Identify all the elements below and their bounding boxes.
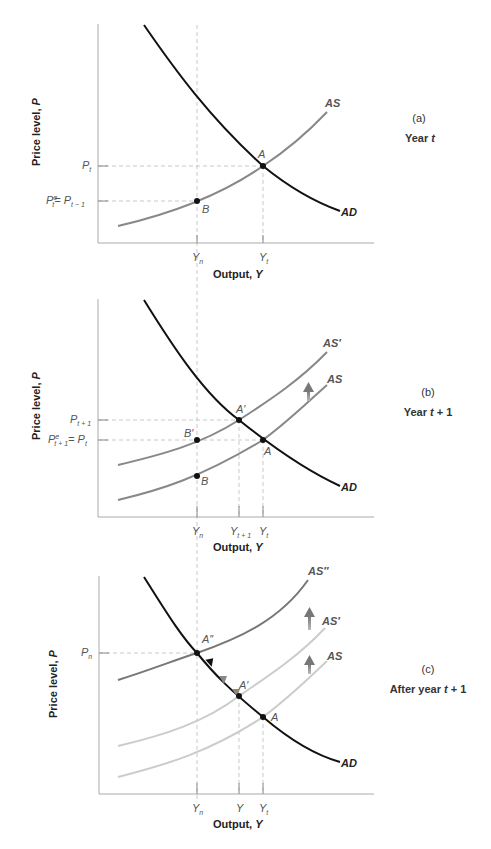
svg-text:Y: Y: [236, 802, 244, 814]
label-as: AS: [326, 373, 343, 385]
label-as: AS: [324, 97, 341, 109]
label-a: A: [263, 445, 271, 457]
svg-text:Pn: Pn: [81, 646, 92, 660]
label-as-prime: AS′: [322, 337, 342, 349]
figure: A B AS AD Pt Pet= Pt − 1 Yn Yt Output, Y…: [0, 0, 491, 849]
label-b: B: [202, 203, 209, 215]
label-as: AS: [326, 650, 343, 662]
svg-text:Yt + 1: Yt + 1: [230, 525, 251, 539]
svg-text:Yt: Yt: [259, 251, 269, 265]
panel-caption: Year t: [405, 132, 436, 144]
label-a-double-prime: A″: [201, 633, 214, 645]
as-curve: [118, 112, 327, 226]
svg-text:Output, Y: Output, Y: [213, 541, 264, 553]
svg-text:Pet + 1= Pt: Pet + 1= Pt: [48, 433, 88, 447]
ad-curve: [144, 300, 340, 486]
svg-text:Pt: Pt: [82, 159, 92, 173]
label-as-prime: AS′: [321, 615, 341, 627]
svg-text:Yt: Yt: [259, 802, 269, 816]
svg-text:Yn: Yn: [192, 525, 203, 539]
label-a-prime: A′: [238, 679, 249, 691]
point-a: [260, 163, 266, 169]
panel-c: A″ A′ A AS″ AS′ AS AD Pn Yn Y Yt Output,…: [47, 565, 466, 830]
label-ad: AD: [340, 206, 357, 218]
panel-a: A B AS AD Pt Pet= Pt − 1 Yn Yt Output, Y…: [30, 24, 436, 280]
svg-text:After year t + 1: After year t + 1: [390, 683, 467, 695]
svg-text:Yn: Yn: [192, 802, 203, 816]
label-b-prime: B′: [184, 427, 194, 439]
label-b: B: [201, 475, 208, 487]
as-curve: [118, 385, 327, 500]
as-prime-curve: [118, 352, 327, 465]
svg-text:Yn: Yn: [192, 251, 203, 265]
ad-curve: [144, 25, 340, 211]
shift-up-arrow-icon: [304, 655, 315, 665]
svg-text:Price level, P: Price level, P: [47, 649, 59, 718]
svg-text:Pt + 1: Pt + 1: [70, 413, 91, 427]
as-prime-curve: [118, 628, 325, 746]
point-b: [194, 198, 200, 204]
label-a: A: [257, 148, 265, 160]
x-axis-label: Output, Y: [213, 268, 264, 280]
label-ad: AD: [340, 757, 357, 769]
panel-tag: (a): [412, 112, 425, 124]
svg-text:Output, Y: Output, Y: [213, 818, 264, 830]
as-double-prime-curve: [118, 580, 308, 680]
svg-text:Pet= Pt − 1: Pet= Pt − 1: [46, 194, 85, 208]
shift-up-arrow-icon: [304, 607, 315, 617]
svg-text:Yt: Yt: [259, 525, 269, 539]
panel-b: A′ A B′ B AS′ AS AD Pt + 1 Pet + 1= Pt Y…: [30, 299, 452, 553]
svg-text:Price level, P: Price level, P: [30, 371, 42, 440]
svg-text:(c): (c): [422, 663, 435, 675]
label-ad: AD: [340, 481, 357, 493]
svg-text:Year t + 1: Year t + 1: [404, 406, 453, 418]
y-axis-label: Price level, P: [30, 97, 42, 166]
shift-up-arrow-icon: [303, 382, 314, 392]
label-as-double-prime: AS″: [307, 565, 329, 577]
label-a: A: [270, 711, 278, 723]
svg-text:(b): (b): [421, 386, 434, 398]
label-a-prime: A′: [235, 403, 246, 415]
